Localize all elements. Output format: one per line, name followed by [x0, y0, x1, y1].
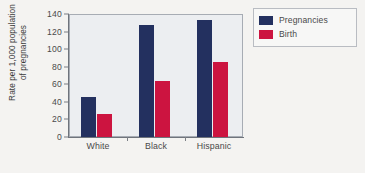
bar-white-birth — [97, 114, 112, 137]
y-axis-title: Rate per 1,000 population of pregnancies — [8, 0, 29, 113]
y-axis-tick-labels: 020406080100120140 — [38, 0, 62, 173]
bars-layer — [69, 14, 243, 137]
legend-item-birth[interactable]: Birth — [259, 27, 351, 41]
bar-hispanic-pregnancies — [197, 20, 212, 137]
y-axis-title-line-2: of pregnancies — [18, 0, 29, 113]
legend-label-birth: Birth — [279, 29, 297, 39]
x-axis-tick-label: White — [87, 141, 110, 151]
legend-swatch-pregnancies — [259, 16, 273, 25]
x-axis-tick-labels: WhiteBlackHispanic — [69, 141, 243, 161]
bar-black-pregnancies — [139, 25, 154, 137]
legend-item-pregnancies[interactable]: Pregnancies — [259, 13, 351, 27]
bar-chart-figure: Rate per 1,000 population of pregnancies… — [0, 0, 365, 173]
y-axis-tick-label: 100 — [38, 44, 62, 54]
y-axis-tick-label: 80 — [38, 62, 62, 72]
y-axis-tick-label: 0 — [38, 132, 62, 142]
y-axis-tick-label: 60 — [38, 79, 62, 89]
y-axis-tick-label: 20 — [38, 114, 62, 124]
bar-black-birth — [155, 81, 170, 137]
x-axis-tick-label: Hispanic — [197, 141, 232, 151]
y-axis-tick-label: 40 — [38, 97, 62, 107]
bar-hispanic-birth — [213, 62, 228, 137]
chart-legend: Pregnancies Birth — [253, 8, 357, 47]
x-axis-tick-label: Black — [145, 141, 167, 151]
y-axis-title-line-1: Rate per 1,000 population — [8, 0, 19, 113]
y-axis-tick-label: 140 — [38, 9, 62, 19]
y-axis-tick-label: 120 — [38, 27, 62, 37]
legend-swatch-birth — [259, 30, 273, 39]
bar-white-pregnancies — [81, 97, 96, 137]
legend-label-pregnancies: Pregnancies — [279, 15, 328, 25]
x-axis-line — [68, 137, 244, 138]
